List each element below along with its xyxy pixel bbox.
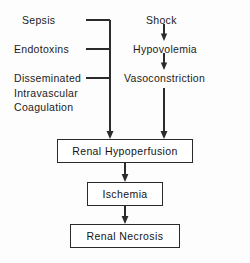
box-renal-hypoperfusion: Renal Hypoperfusion [57, 139, 193, 163]
node-disseminated-intravascular-coagulation: Disseminated Intravascular Coagulation [14, 71, 81, 115]
node-shock: Shock [146, 13, 177, 27]
arrowhead-shock-hypovolemia [161, 34, 167, 42]
node-hypovolemia: Hypovolemia [133, 42, 197, 56]
arrowhead-vasoconstriction-hypoperfusion [161, 131, 168, 139]
box-renal-necrosis-label: Renal Necrosis [87, 230, 164, 242]
box-ischemia-label: Ischemia [102, 188, 147, 200]
node-endotoxins: Endotoxins [14, 42, 69, 56]
box-ischemia: Ischemia [87, 182, 163, 206]
arrowhead-hypoperfusion-ischemia [122, 174, 129, 182]
node-sepsis: Sepsis [22, 13, 55, 27]
flowchart-diagram: Sepsis Endotoxins Disseminated Intravasc… [0, 0, 250, 263]
left-spine-arrowhead [107, 131, 114, 139]
box-renal-necrosis: Renal Necrosis [70, 224, 180, 248]
box-renal-hypoperfusion-label: Renal Hypoperfusion [72, 145, 178, 157]
arrowhead-hypovolemia-vasoconstriction [161, 63, 167, 71]
node-vasoconstriction: Vasoconstriction [124, 71, 205, 85]
arrowhead-ischemia-necrosis [122, 216, 129, 224]
